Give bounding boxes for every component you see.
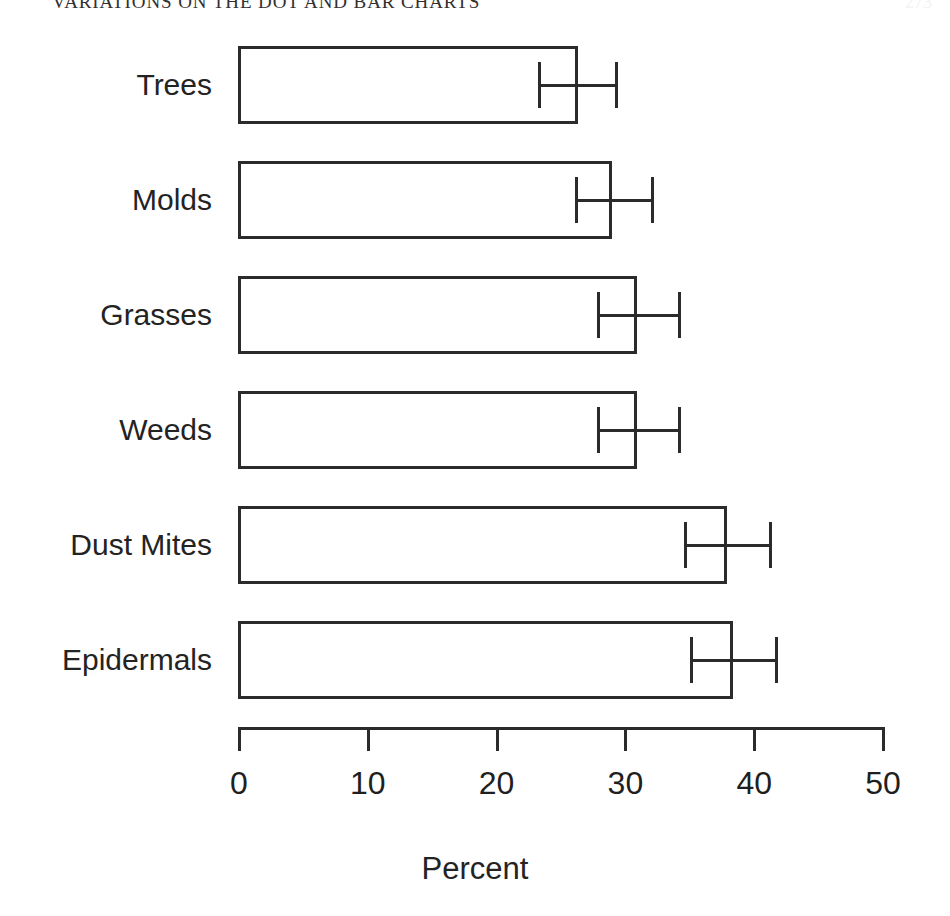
error-bar-cap-high-trees [615, 62, 618, 108]
x-axis-tick-label-0: 0 [230, 767, 248, 799]
error-bar-cap-low-dust-mites [684, 522, 687, 568]
x-axis-tick-20 [496, 727, 499, 751]
error-bar-cap-low-grasses [597, 292, 600, 338]
x-axis-line [238, 727, 885, 730]
error-bar-line-epidermals [690, 659, 775, 662]
bar-chart: TreesMoldsGrassesWeedsDust MitesEpiderma… [0, 0, 950, 916]
x-axis-tick-label-20: 20 [479, 767, 515, 799]
category-label-epidermals: Epidermals [62, 645, 212, 675]
error-bar-cap-high-weeds [678, 407, 681, 453]
category-label-grasses: Grasses [100, 300, 212, 330]
x-axis-tick-label-40: 40 [736, 767, 772, 799]
x-axis-tick-label-10: 10 [350, 767, 386, 799]
error-bar-cap-high-grasses [678, 292, 681, 338]
category-label-weeds: Weeds [119, 415, 212, 445]
error-bar-cap-low-epidermals [690, 637, 693, 683]
category-label-trees: Trees [136, 70, 212, 100]
x-axis-tick-0 [238, 727, 241, 751]
bar-trees [238, 46, 578, 124]
error-bar-line-molds [575, 199, 651, 202]
error-bar-line-grasses [597, 314, 678, 317]
error-bar-line-trees [538, 84, 615, 87]
error-bar-cap-low-molds [575, 177, 578, 223]
plot-area: TreesMoldsGrassesWeedsDust MitesEpiderma… [0, 0, 950, 916]
x-axis-title: Percent [0, 853, 950, 884]
x-axis-tick-10 [367, 727, 370, 751]
error-bar-cap-high-molds [651, 177, 654, 223]
category-label-dust-mites: Dust Mites [70, 530, 212, 560]
bar-epidermals [238, 621, 733, 699]
error-bar-cap-high-epidermals [775, 637, 778, 683]
bar-weeds [238, 391, 637, 469]
x-axis-tick-label-30: 30 [608, 767, 644, 799]
x-axis-tick-40 [753, 727, 756, 751]
bar-molds [238, 161, 612, 239]
error-bar-cap-low-weeds [597, 407, 600, 453]
category-label-molds: Molds [132, 185, 212, 215]
error-bar-cap-high-dust-mites [769, 522, 772, 568]
bar-grasses [238, 276, 637, 354]
error-bar-line-dust-mites [684, 544, 769, 547]
bar-dust-mites [238, 506, 727, 584]
x-axis-tick-30 [624, 727, 627, 751]
error-bar-cap-low-trees [538, 62, 541, 108]
x-axis-tick-label-50: 50 [865, 767, 901, 799]
x-axis-tick-50 [882, 727, 885, 751]
error-bar-line-weeds [597, 429, 678, 432]
